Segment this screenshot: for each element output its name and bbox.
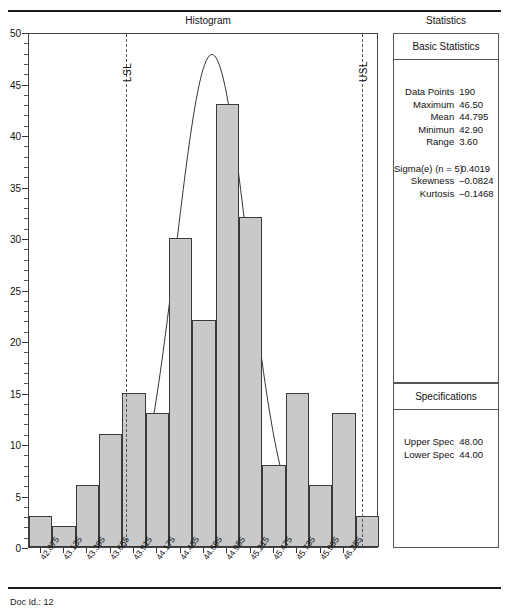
specifications-panel: Specifications Upper Spec48.00Lower Spec… bbox=[393, 383, 499, 548]
basic-stat-label: Mean bbox=[394, 111, 459, 124]
y-tick-major bbox=[22, 548, 28, 549]
statistics-title: Statistics bbox=[393, 15, 499, 26]
histogram-bar bbox=[262, 465, 285, 547]
basic-stat-row: Minimun42.90 bbox=[394, 124, 498, 137]
basic-stat-value: 46.50 bbox=[459, 99, 498, 112]
basic-statistics-rows: Data Points190Maximum46.50Mean44.795Mini… bbox=[394, 60, 498, 200]
report-page: Doc Id.: 12 Histogram Statistics 0510152… bbox=[0, 0, 509, 611]
basic-stat-label: Sigma(e) (n = 5) bbox=[394, 163, 461, 176]
specifications-heading: Specifications bbox=[394, 384, 498, 410]
spec-stat-value: 44.00 bbox=[459, 449, 498, 462]
histogram-title: Histogram bbox=[38, 15, 378, 26]
basic-stat-value: 0.4019 bbox=[461, 163, 498, 176]
y-tick-label: 45 bbox=[10, 79, 21, 90]
spec-stat-label: Lower Spec bbox=[394, 449, 459, 462]
basic-stat-value: –0.0824 bbox=[459, 175, 498, 188]
histogram-bar bbox=[332, 413, 355, 547]
histogram-bar bbox=[99, 434, 122, 547]
spec-stat-value: 48.00 bbox=[459, 436, 498, 449]
y-tick-label: 10 bbox=[10, 440, 21, 451]
usl-line bbox=[362, 34, 363, 547]
basic-stat-value: 44.795 bbox=[459, 111, 498, 124]
y-tick-label: 0 bbox=[15, 543, 21, 554]
lsl-line bbox=[126, 34, 127, 547]
y-tick-label: 30 bbox=[10, 234, 21, 245]
plot-canvas: LSLUSL bbox=[29, 34, 377, 547]
basic-stat-label: Data Points bbox=[394, 86, 459, 99]
y-tick-label: 15 bbox=[10, 388, 21, 399]
y-axis: 05101520253035404550 bbox=[0, 33, 28, 548]
report-caption: Doc Id.: 12 bbox=[10, 596, 310, 609]
basic-stat-row: Mean44.795 bbox=[394, 111, 498, 124]
lsl-label: LSL bbox=[122, 63, 133, 82]
basic-stat-row: Sigma(e) (n = 5)0.4019 bbox=[394, 163, 498, 176]
usl-label: USL bbox=[358, 61, 369, 82]
basic-stat-row: Range3.60 bbox=[394, 136, 498, 149]
histogram-bar bbox=[239, 217, 262, 547]
histogram-plot-area: LSLUSL bbox=[28, 33, 378, 548]
basic-stat-label: Range bbox=[394, 136, 459, 149]
spec-stat-row: Upper Spec48.00 bbox=[394, 436, 498, 449]
basic-stat-row: Maximum46.50 bbox=[394, 99, 498, 112]
basic-stat-row: Kurtosis–0.1468 bbox=[394, 188, 498, 201]
basic-stat-value: –0.1468 bbox=[459, 188, 498, 201]
y-tick-label: 50 bbox=[10, 28, 21, 39]
basic-stat-value: 42.90 bbox=[459, 124, 498, 137]
basic-stat-label: Maximum bbox=[394, 99, 459, 112]
histogram-bar bbox=[286, 393, 309, 548]
y-tick-label: 25 bbox=[10, 285, 21, 296]
basic-statistics-heading: Basic Statistics bbox=[394, 34, 498, 60]
top-divider bbox=[8, 10, 501, 12]
specifications-rows: Upper Spec48.00Lower Spec44.00 bbox=[394, 410, 498, 461]
basic-stat-row: Skewness–0.0824 bbox=[394, 175, 498, 188]
basic-stat-label: Skewness bbox=[394, 175, 459, 188]
basic-statistics-panel: Basic Statistics Data Points190Maximum46… bbox=[393, 33, 499, 383]
stat-separator bbox=[394, 149, 498, 163]
y-tick-label: 35 bbox=[10, 182, 21, 193]
bottom-divider bbox=[8, 587, 501, 589]
histogram-bar bbox=[169, 238, 192, 547]
y-tick-label: 40 bbox=[10, 131, 21, 142]
histogram-bar bbox=[216, 104, 239, 547]
y-tick-label: 5 bbox=[15, 491, 21, 502]
histogram-bar bbox=[146, 413, 169, 547]
y-tick-label: 20 bbox=[10, 337, 21, 348]
basic-stat-row: Data Points190 bbox=[394, 86, 498, 99]
basic-stat-label: Kurtosis bbox=[394, 188, 459, 201]
basic-stat-label: Minimun bbox=[394, 124, 459, 137]
spec-stat-label: Upper Spec bbox=[394, 436, 459, 449]
basic-stat-value: 3.60 bbox=[459, 136, 498, 149]
histogram-bar bbox=[192, 320, 215, 547]
basic-stat-value: 190 bbox=[459, 86, 498, 99]
spec-stat-row: Lower Spec44.00 bbox=[394, 449, 498, 462]
